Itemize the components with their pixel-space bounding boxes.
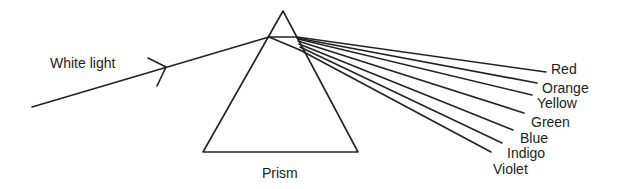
prism-triangle [203,11,358,152]
incident-ray [32,37,269,107]
spectrum-label-green: Green [531,115,570,129]
spectrum-rays [297,37,546,152]
spectrum-label-violet: Violet [493,162,528,176]
spectrum-label-yellow: Yellow [537,96,577,110]
spectrum-label-blue: Blue [520,131,548,145]
ray-violet [300,50,491,152]
spectrum-label-red: Red [551,62,577,76]
ray-blue [299,44,513,130]
spectrum-label-orange: Orange [542,81,589,95]
ray-red [297,37,546,72]
ray-orange [297,38,537,83]
spectrum-label-indigo: Indigo [507,146,545,160]
internal-rays [269,37,300,50]
prism-dispersion-diagram: White light Prism Red Orange Yellow Gree… [0,0,625,189]
prism-label: Prism [262,166,298,180]
white-light-label: White light [50,56,115,70]
